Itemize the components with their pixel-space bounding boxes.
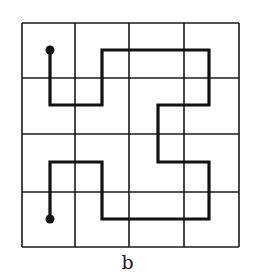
path-start-dot: [46, 46, 55, 55]
hilbert-curve-diagram: [0, 0, 255, 277]
grid-lines: [22, 23, 239, 247]
path-end-dot: [46, 215, 55, 224]
figure-caption: b: [0, 252, 255, 272]
